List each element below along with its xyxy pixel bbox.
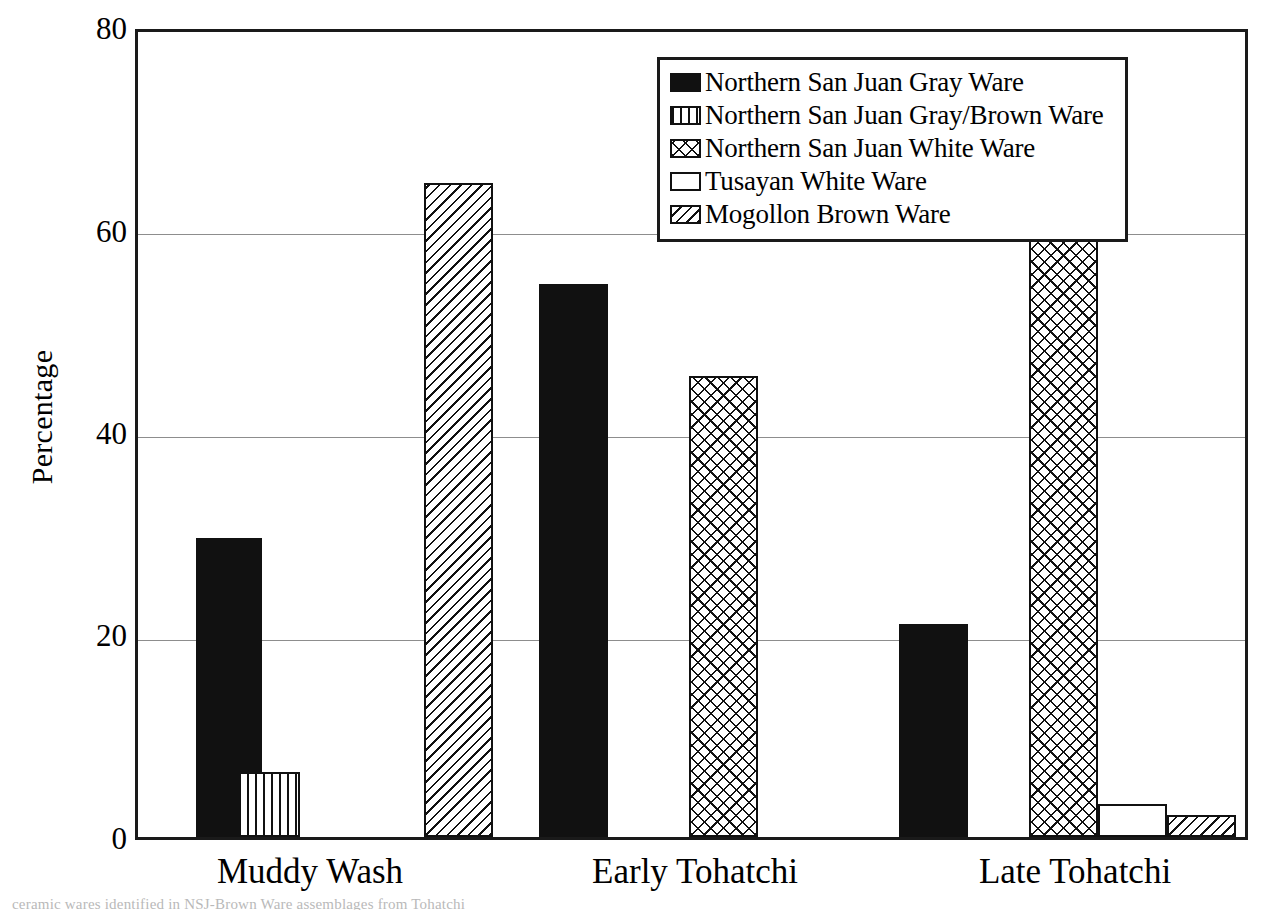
bar-late-tohatchi-northern-san-juan-gray-ware [899,624,968,837]
legend-item-mogollon-brown-ware: Mogollon Brown Ware [670,198,1117,231]
y-tick-80: 80 [47,13,127,44]
bar-early-tohatchi-northern-san-juan-gray-ware [539,284,608,837]
empty-white-swatch-icon [670,172,701,191]
legend-label: Tusayan White Ware [705,168,927,195]
vertical-lines-swatch-icon [670,106,701,125]
legend-label: Northern San Juan Gray/Brown Ware [705,102,1104,129]
y-tick-0: 0 [47,823,127,854]
bar-early-tohatchi-northern-san-juan-white-ware [689,376,758,837]
bar-late-tohatchi-tusayan-white-ware [1098,804,1167,837]
legend-item-northern-san-juan-gray-brown-ware: Northern San Juan Gray/Brown Ware [670,99,1117,132]
bar-chart-figure: Percentage 80 60 40 20 0 [0,0,1282,910]
legend-item-northern-san-juan-white-ware: Northern San Juan White Ware [670,132,1117,165]
cross-hatch-swatch-icon [670,139,701,158]
bar-late-tohatchi-mogollon-brown-ware [1167,815,1236,837]
legend-label: Northern San Juan Gray Ware [705,69,1024,96]
figure-caption: ceramic wares identified in NSJ-Brown Wa… [0,896,1282,910]
solid-black-swatch-icon [670,73,701,92]
plot-area: Northern San Juan Gray Ware Northern San… [135,29,1248,840]
x-category-late-tohatchi: Late Tohatchi [930,852,1220,892]
y-tick-40: 40 [47,418,127,449]
legend: Northern San Juan Gray Ware Northern San… [657,57,1128,242]
x-category-early-tohatchi: Early Tohatchi [545,852,845,892]
legend-item-tusayan-white-ware: Tusayan White Ware [670,165,1117,198]
y-tick-20: 20 [47,620,127,651]
legend-label: Mogollon Brown Ware [705,201,951,228]
bar-muddy-wash-mogollon-brown-ware [424,183,493,837]
diagonal-hatch-swatch-icon [670,205,701,224]
bar-muddy-wash-northern-san-juan-gray-brown-ware [237,772,300,837]
legend-item-northern-san-juan-gray-ware: Northern San Juan Gray Ware [670,66,1117,99]
legend-label: Northern San Juan White Ware [705,135,1035,162]
y-axis-title: Percentage [25,297,59,537]
x-category-muddy-wash: Muddy Wash [180,852,440,892]
y-tick-60: 60 [47,216,127,247]
